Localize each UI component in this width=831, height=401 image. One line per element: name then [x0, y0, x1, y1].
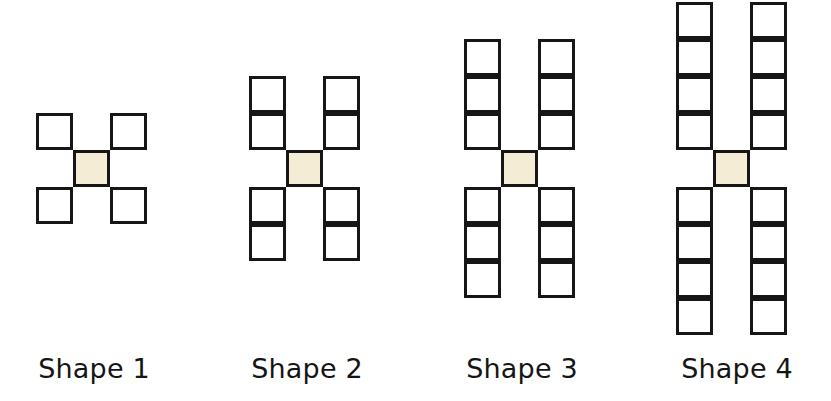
arm-tile	[36, 113, 73, 150]
arm-tile	[676, 224, 713, 261]
center-tile	[73, 150, 110, 187]
arm-tile	[110, 113, 147, 150]
shape-label-1: Shape 1	[0, 353, 188, 384]
arm-tile	[323, 113, 360, 150]
arm-tile	[464, 113, 501, 150]
arm-tile	[676, 187, 713, 224]
arm-tile	[464, 261, 501, 298]
shape-label-2: Shape 2	[213, 353, 401, 384]
arm-tile	[750, 261, 787, 298]
arm-tile	[676, 113, 713, 150]
arm-tile	[249, 187, 286, 224]
arm-tile	[323, 187, 360, 224]
arm-tile	[110, 187, 147, 224]
arm-tile	[676, 261, 713, 298]
arm-tile	[323, 224, 360, 261]
shape-pattern-diagram: Shape 1Shape 2Shape 3Shape 4	[0, 0, 831, 401]
arm-tile	[676, 298, 713, 335]
arm-tile	[538, 261, 575, 298]
arm-tile	[538, 187, 575, 224]
arm-tile	[249, 224, 286, 261]
arm-tile	[750, 224, 787, 261]
arm-tile	[750, 76, 787, 113]
arm-tile	[538, 113, 575, 150]
shape-label-4: Shape 4	[643, 353, 831, 384]
arm-tile	[464, 76, 501, 113]
arm-tile	[676, 39, 713, 76]
arm-tile	[538, 76, 575, 113]
shape-figure-2	[249, 76, 360, 261]
arm-tile	[750, 298, 787, 335]
arm-tile	[750, 2, 787, 39]
shape-label-3: Shape 3	[428, 353, 616, 384]
arm-tile	[538, 224, 575, 261]
arm-tile	[249, 113, 286, 150]
arm-tile	[36, 187, 73, 224]
arm-tile	[464, 187, 501, 224]
arm-tile	[676, 2, 713, 39]
center-tile	[286, 150, 323, 187]
center-tile	[501, 150, 538, 187]
shape-figure-3	[464, 39, 575, 298]
shape-figure-4	[676, 2, 787, 335]
arm-tile	[464, 224, 501, 261]
arm-tile	[750, 113, 787, 150]
arm-tile	[323, 76, 360, 113]
center-tile	[713, 150, 750, 187]
arm-tile	[750, 39, 787, 76]
arm-tile	[249, 76, 286, 113]
shape-figure-1	[36, 113, 147, 224]
arm-tile	[676, 76, 713, 113]
arm-tile	[538, 39, 575, 76]
arm-tile	[750, 187, 787, 224]
arm-tile	[464, 39, 501, 76]
